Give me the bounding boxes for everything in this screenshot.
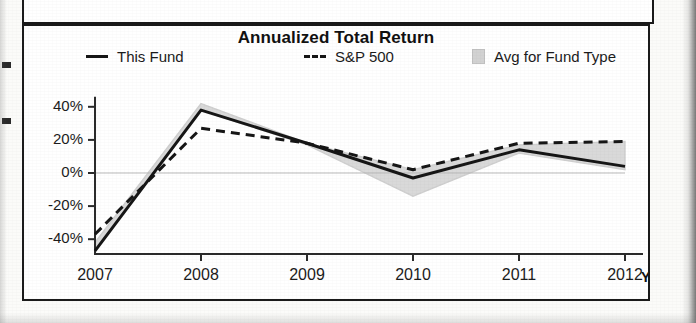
y-axis-tick-label: -20% [27,196,83,213]
y-axis-tick-label: -40% [27,229,83,246]
adjacent-table-box-above [22,0,654,24]
x-axis-tick-label: 2010 [378,266,448,284]
x-axis-ytd-note: YTD [641,269,650,285]
scan-left-edge-shadow [0,0,7,323]
annualized-total-return-chart-panel: Annualized Total Return This Fund S&P 50… [22,24,650,301]
y-axis-tick-label: 0% [27,163,83,180]
scan-right-edge-shadow [682,0,696,323]
series-line-this-fund [95,110,625,251]
x-axis-tick-label: 2008 [166,266,236,284]
scan-bottom-edge-shadow [0,313,696,323]
y-axis-tick-label: 20% [27,130,83,147]
avg-for-fund-type-band [95,103,625,250]
scanned-page-background: Annualized Total Return This Fund S&P 50… [0,0,696,323]
y-axis-tick-label: 40% [27,97,83,114]
plot-area: 40%20%0%-20%-40%200720082009201020112012… [24,26,648,299]
x-axis-tick-label: 2011 [484,266,554,284]
x-axis-tick-label: 2009 [272,266,342,284]
plot-svg [24,26,648,299]
x-axis-tick-label: 2007 [60,266,130,284]
